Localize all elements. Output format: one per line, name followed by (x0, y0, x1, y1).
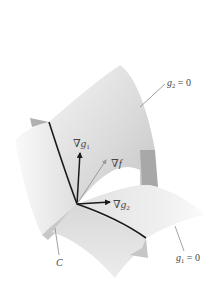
lagrange-diagram: ∇g1 ∇f ∇g2 g2 = 0 g1 = 0 C (0, 0, 218, 299)
leader-g2 (140, 84, 165, 107)
surface-g2-edge (140, 150, 158, 187)
label-curve-c: C (56, 257, 63, 268)
label-g1-surface: g1 = 0 (176, 252, 200, 264)
leader-g1 (175, 226, 184, 251)
label-g2-surface: g2 = 0 (167, 77, 191, 89)
